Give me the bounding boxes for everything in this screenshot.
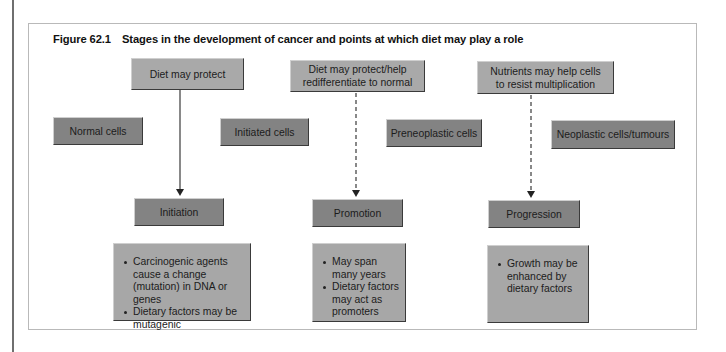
figure-title: Stages in the development of cancer and …: [122, 33, 523, 45]
bullet-item: Dietary factors may be mutagenic: [124, 306, 244, 331]
stage-label: Progression: [506, 208, 561, 221]
bullet-item: Carcinogenic agents cause a change (muta…: [124, 256, 244, 306]
stage-description-promotion: May span many years Dietary factors may …: [312, 243, 406, 322]
bullet-list: Growth may be enhanced by dietary factor…: [498, 258, 582, 296]
diet-influence-label: Diet may protect: [150, 68, 226, 81]
page-margin-rule: [12, 0, 14, 352]
stage-box-progression: Progression: [488, 200, 580, 228]
stage-description-initiation: Carcinogenic agents cause a change (muta…: [113, 243, 251, 321]
cell-state-preneoplastic: Preneoplastic cells: [386, 119, 482, 147]
stage-box-initiation: Initiation: [134, 198, 224, 226]
bullet-item: Dietary factors may act as promoters: [323, 281, 399, 319]
stage-label: Promotion: [334, 207, 381, 220]
diet-influence-box-promotion: Diet may protect/help redifferentiate to…: [290, 60, 425, 92]
diet-influence-label: Nutrients may help cells to resist multi…: [486, 65, 605, 91]
cell-state-label: Preneoplastic cells: [391, 127, 478, 140]
figure-number: Figure 62.1: [53, 33, 111, 45]
cell-state-label: Normal cells: [69, 125, 126, 138]
figure-caption: Figure 62.1 Stages in the development of…: [53, 33, 523, 45]
diet-influence-box-initiation: Diet may protect: [131, 58, 244, 90]
bullet-list: May span many years Dietary factors may …: [323, 256, 399, 319]
cell-state-initiated: Initiated cells: [220, 118, 309, 146]
cell-state-label: Initiated cells: [234, 126, 294, 139]
bullet-item: Growth may be enhanced by dietary factor…: [498, 258, 582, 296]
cell-state-neoplastic: Neoplastic cells/tumours: [551, 120, 675, 149]
stage-description-progression: Growth may be enhanced by dietary factor…: [487, 245, 589, 323]
cell-state-normal: Normal cells: [53, 117, 143, 145]
bullet-item: May span many years: [323, 256, 399, 281]
cell-state-label: Neoplastic cells/tumours: [557, 128, 670, 141]
diet-influence-box-progression: Nutrients may help cells to resist multi…: [477, 61, 614, 94]
bullet-list: Carcinogenic agents cause a change (muta…: [124, 256, 244, 332]
diet-influence-label: Diet may protect/help redifferentiate to…: [297, 63, 418, 89]
stage-box-promotion: Promotion: [312, 199, 403, 227]
stage-label: Initiation: [160, 206, 199, 219]
